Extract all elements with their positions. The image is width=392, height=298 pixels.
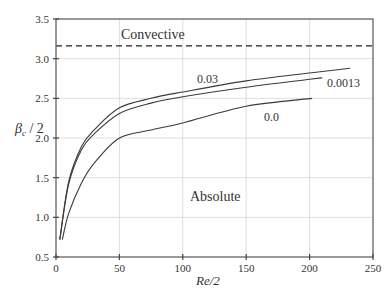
y-tick-label: 1.5 — [35, 172, 49, 184]
y-tick-label: 2.5 — [35, 92, 49, 104]
y-tick-label: 0.5 — [35, 251, 49, 263]
grid-lines — [56, 19, 373, 257]
curve-label-0.0: 0.0 — [264, 110, 279, 124]
curve-label-0.03: 0.03 — [197, 72, 218, 86]
y-axis-title-rest: / 2 — [26, 121, 44, 136]
curves — [60, 68, 350, 239]
x-tick-label: 100 — [175, 262, 192, 274]
y-tick-label: 1.0 — [35, 211, 49, 223]
y-tick-label: 3.0 — [35, 53, 49, 65]
y-tick-label: 3.5 — [35, 13, 49, 25]
curve-0.03 — [60, 68, 350, 239]
x-tick-label: 150 — [238, 262, 255, 274]
curve-label-0.0013: 0.0013 — [327, 76, 360, 90]
y-axis-title: βc / 2 — [14, 121, 44, 138]
x-tick-label: 50 — [114, 262, 126, 274]
x-tick-label: 200 — [301, 262, 318, 274]
curve-0.0013 — [60, 78, 322, 240]
y-axis-title-beta: β — [14, 121, 22, 136]
axis-ticks: 0501001502002500.51.01.52.02.53.03.5 — [35, 13, 382, 274]
absolute-label: Absolute — [190, 189, 241, 204]
stability-chart: 0501001502002500.51.01.52.02.53.03.5 Con… — [0, 0, 392, 298]
convective-label: Convective — [121, 27, 185, 42]
x-tick-label: 0 — [53, 262, 59, 274]
x-axis-title: Re/2 — [195, 273, 220, 288]
x-tick-label: 250 — [365, 262, 382, 274]
